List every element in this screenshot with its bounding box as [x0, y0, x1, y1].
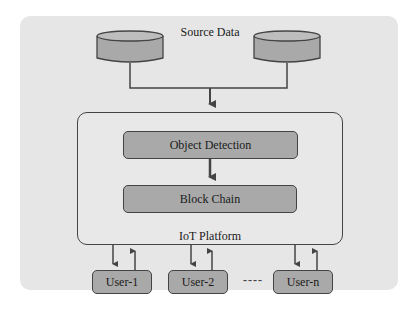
user-2-box: User-2 [168, 270, 228, 294]
iot-platform-label: IoT Platform [160, 229, 260, 244]
object-detection-module: Object Detection [123, 131, 298, 159]
user-ellipsis: ---- [238, 273, 268, 288]
user-n-box: User-n [273, 270, 333, 294]
user-1-label: User-1 [106, 275, 138, 290]
source-data-label: Source Data [160, 25, 260, 40]
database-icon-left [97, 31, 163, 62]
block-chain-module: Block Chain [123, 185, 297, 213]
user-1-box: User-1 [92, 270, 152, 294]
object-detection-label: Object Detection [170, 138, 252, 153]
database-icon-right [254, 31, 320, 62]
user-n-label: User-n [287, 275, 319, 290]
block-chain-label: Block Chain [180, 192, 240, 207]
user-2-label: User-2 [182, 275, 214, 290]
